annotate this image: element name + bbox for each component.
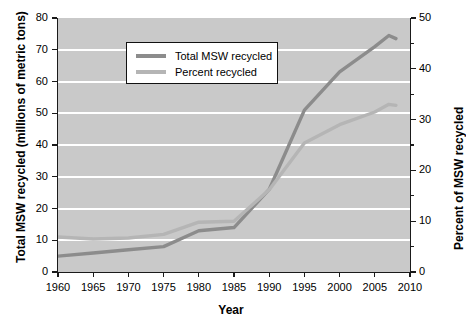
- y-tick-left-50: [52, 113, 57, 114]
- y-tick-right-minor-5: [411, 246, 414, 247]
- y-tick-label-right-50: 50: [419, 11, 449, 23]
- x-tick-1980: [198, 272, 199, 277]
- y-tick-label-left-0: 0: [18, 265, 48, 277]
- y-axis-right-title: Percent of MSW recycled: [452, 107, 466, 250]
- legend-item-total-msw-recycled: Total MSW recycled: [127, 48, 277, 64]
- y-tick-label-right-0: 0: [419, 265, 449, 277]
- y-tick-left-40: [52, 144, 57, 145]
- y-tick-label-right-20: 20: [419, 163, 449, 175]
- legend-label-percent-recycled: Percent recycled: [175, 67, 257, 78]
- y-tick-left-10: [52, 240, 57, 241]
- x-axis-title: Year: [0, 303, 462, 317]
- plot-area: Total MSW recycled Percent recycled: [58, 18, 410, 272]
- series-line-percent-recycled: [58, 104, 396, 239]
- y-tick-left-80: [52, 17, 57, 18]
- x-tick-1960: [57, 272, 58, 277]
- x-tick-1990: [269, 272, 270, 277]
- legend-swatch-percent-recycled: [136, 70, 166, 73]
- y-tick-right-50: [411, 17, 416, 18]
- y-tick-right-minor-15: [411, 195, 414, 196]
- y-tick-left-30: [52, 176, 57, 177]
- y-tick-label-right-40: 40: [419, 62, 449, 74]
- x-tick-1995: [304, 272, 305, 277]
- legend-item-percent-recycled: Percent recycled: [127, 64, 277, 80]
- y-tick-right-40: [411, 68, 416, 69]
- y-tick-label-right-30: 30: [419, 113, 449, 125]
- x-tick-2010: [409, 272, 410, 277]
- y-tick-right-10: [411, 221, 416, 222]
- y-tick-right-30: [411, 119, 416, 120]
- x-tick-1965: [93, 272, 94, 277]
- y-tick-right-minor-45: [411, 43, 414, 44]
- legend-label-total-msw-recycled: Total MSW recycled: [175, 51, 272, 62]
- y-axis-left-title: Total MSW recycled (millions of metric t…: [14, 11, 28, 263]
- x-tick-label-2010: 2010: [387, 281, 433, 293]
- y-axis-left-line: [57, 18, 58, 272]
- y-tick-left-20: [52, 208, 57, 209]
- y-tick-left-70: [52, 49, 57, 50]
- y-tick-right-20: [411, 170, 416, 171]
- x-tick-2005: [374, 272, 375, 277]
- y-tick-right-minor-35: [411, 94, 414, 95]
- x-tick-1970: [128, 272, 129, 277]
- y-tick-label-right-10: 10: [419, 214, 449, 226]
- y-tick-left-0: [52, 271, 57, 272]
- y-tick-right-minor-25: [411, 144, 414, 145]
- x-tick-1975: [163, 272, 164, 277]
- x-tick-2000: [339, 272, 340, 277]
- y-tick-left-60: [52, 81, 57, 82]
- y-tick-right-0: [411, 271, 416, 272]
- chart-legend: Total MSW recycled Percent recycled: [126, 42, 278, 84]
- x-tick-1985: [233, 272, 234, 277]
- legend-swatch-total-msw-recycled: [136, 54, 166, 57]
